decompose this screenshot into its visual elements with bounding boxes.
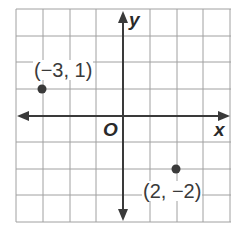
point-neg3-1 <box>38 85 47 94</box>
point-2-neg2 <box>172 165 181 174</box>
y-axis-down-arrow-icon <box>118 209 128 221</box>
origin-label: O <box>103 120 118 139</box>
point-label-neg3-1: (−3, 1) <box>33 60 93 80</box>
y-axis-up-arrow-icon <box>118 11 128 23</box>
y-axis-label: y <box>129 10 140 29</box>
x-axis-left-arrow-icon <box>17 111 29 121</box>
point-label-2-neg2: (2, −2) <box>142 181 202 201</box>
x-axis-label: x <box>214 120 225 139</box>
